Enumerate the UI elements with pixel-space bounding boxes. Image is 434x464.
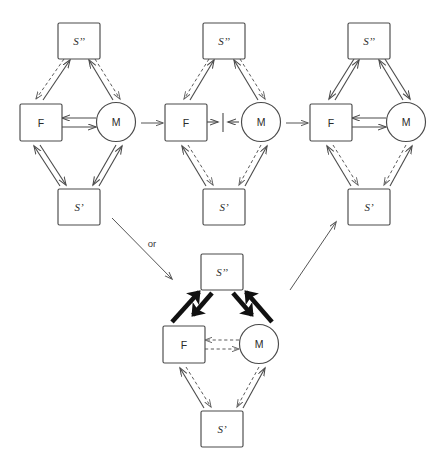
edge-m-to-s1-dashed <box>239 145 261 185</box>
panel-3: S’’ F M S’ <box>310 23 426 225</box>
node-s-double-prime: S’’ <box>201 254 243 290</box>
node-f: F <box>310 104 352 141</box>
node-label: F <box>183 117 189 129</box>
node-label: S’’ <box>363 35 375 47</box>
edge-f-to-s1-dashed <box>186 367 211 407</box>
node-label: M <box>112 116 121 128</box>
edge-f-to-s2-solid <box>335 60 359 100</box>
node-m: M <box>242 103 281 142</box>
node-f: F <box>163 326 205 363</box>
edge-m-to-s1-dashed <box>237 367 259 407</box>
edge-m-to-s2-bold <box>246 292 272 322</box>
edge-s2-to-m-dashed <box>240 59 265 99</box>
edge-s1-to-m-solid <box>99 146 122 186</box>
edge-f-to-s2-solid <box>190 60 214 100</box>
node-label: S’’ <box>216 266 228 278</box>
edge-s1-to-m-solid <box>245 146 267 186</box>
node-label: M <box>402 116 411 128</box>
node-label: S’ <box>74 201 84 213</box>
node-m: M <box>240 325 279 364</box>
transition-panel1-to-panel4: or <box>112 218 172 279</box>
node-s-prime: S’ <box>348 189 390 225</box>
diagram-svg: S’’ F M S’ <box>0 0 434 464</box>
edge-f-to-s1-dashed <box>333 145 358 185</box>
node-m: M <box>387 103 426 142</box>
edge-s1-to-f-solid <box>34 146 60 186</box>
edge-s2-to-f-dashed <box>184 59 209 99</box>
edge-f-to-s1-solid <box>40 145 66 185</box>
panel-2: S’’ F M S’ <box>165 23 281 225</box>
node-label: F <box>38 117 44 129</box>
node-f: F <box>165 104 207 141</box>
or-label: or <box>148 238 156 249</box>
node-label: F <box>328 117 334 129</box>
node-label: M <box>255 338 264 350</box>
node-label: F <box>181 339 187 351</box>
edge-s1-to-m-solid <box>390 146 412 186</box>
edge-m-to-s2-solid <box>234 60 258 100</box>
node-s-double-prime: S’’ <box>58 23 100 59</box>
node-m: M <box>97 103 136 142</box>
edge-m-to-s2-solid <box>89 60 113 100</box>
node-s-double-prime: S’’ <box>348 23 390 59</box>
node-label: S’ <box>364 201 374 213</box>
edge-s2-to-m-solid <box>385 59 410 99</box>
panel-1: S’’ F M S’ <box>20 23 136 225</box>
edge-s1-to-f-solid <box>180 368 204 408</box>
edge-f-to-s2-bold <box>172 292 199 322</box>
edge-s2-to-f-solid <box>329 59 354 99</box>
edge-m-to-s2-solid <box>379 60 403 100</box>
panel-4: S’’ F M S’ <box>163 254 279 447</box>
node-label: S’’ <box>218 35 230 47</box>
diagram-canvas: S’’ F M S’ <box>0 0 434 464</box>
node-s-double-prime: S’’ <box>203 23 245 59</box>
edge-m-to-s1-solid <box>93 145 116 185</box>
transition-panel4-to-panel3 <box>290 222 336 290</box>
node-label: S’ <box>217 423 227 435</box>
edge-f-m-blocked <box>207 113 239 132</box>
node-f: F <box>20 104 62 141</box>
edge-s2-to-m-dashed <box>95 59 120 99</box>
edge-s1-to-f-solid <box>327 146 351 186</box>
node-s-prime: S’ <box>58 189 100 225</box>
node-label: S’ <box>219 201 229 213</box>
edge-f-to-s1-dashed <box>188 145 213 185</box>
edge-s1-to-f-solid <box>182 146 206 186</box>
edge-s1-to-m-solid <box>243 368 265 408</box>
edge-m-to-s1-dashed <box>384 145 406 185</box>
edge-s2-to-f-dashed <box>36 59 64 99</box>
node-s-prime: S’ <box>201 411 243 447</box>
node-label: S’’ <box>73 35 85 47</box>
node-s-prime: S’ <box>203 189 245 225</box>
node-label: M <box>257 116 266 128</box>
edge-f-to-s2-solid <box>43 60 70 100</box>
